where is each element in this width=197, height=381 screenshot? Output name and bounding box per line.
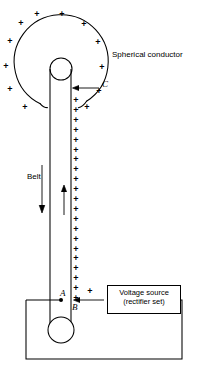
plus-charge-belt: + (73, 175, 78, 184)
van-de-graaff-figure: + + + + + + + + + + + + ++++++++++++++++… (0, 0, 197, 381)
node-a-dot (59, 298, 63, 302)
plus-charge-sphere: + (34, 10, 39, 19)
plus-charge-sphere: + (59, 10, 64, 19)
plus-charge-sphere: + (3, 62, 8, 71)
plus-charge-belt: + (73, 185, 78, 194)
plus-charge-sphere: + (81, 20, 86, 29)
plus-charge-sphere: + (84, 103, 89, 112)
plus-charge-belt: + (73, 105, 78, 114)
plus-charge-belt: + (73, 145, 78, 154)
plus-charge-belt: + (73, 224, 78, 233)
plus-charge-belt: + (73, 155, 78, 164)
spherical-conductor-label: Spherical conductor (112, 50, 183, 59)
point-c-label: C (102, 79, 108, 89)
plus-charge-belt: + (73, 274, 78, 283)
plus-charge-sphere: + (95, 38, 100, 47)
plus-charge-sphere: + (7, 37, 12, 46)
plus-charge-sphere: + (99, 63, 104, 72)
plus-charge-sphere: + (7, 85, 12, 94)
bottom-pulley (48, 317, 74, 343)
belt-down-arrow-head (39, 205, 45, 213)
plus-charge-sphere: + (96, 87, 101, 96)
plus-charge-sphere: + (22, 103, 27, 112)
voltage-source-line1: Voltage source (111, 288, 177, 297)
voltage-source-line2: (rectifier set) (111, 297, 177, 306)
belt-up-arrow-head (61, 185, 66, 192)
top-pulley (50, 58, 72, 80)
plus-charge-belt: + (73, 204, 78, 213)
point-a-label: A (60, 288, 66, 298)
plus-charge-belt: + (73, 254, 78, 263)
plus-charge-belt: + (73, 264, 78, 273)
plus-charge-sphere: + (18, 19, 23, 28)
plus-charge-belt: + (73, 125, 78, 134)
point-b-label: B (72, 302, 78, 312)
plus-charge-belt: + (73, 244, 78, 253)
belt-label: Belt (27, 172, 41, 181)
plus-charge-belt: + (73, 284, 78, 293)
plus-charge-belt: + (73, 234, 78, 243)
plus-charge-belt: + (73, 195, 78, 204)
plus-charge-source-lead: + (87, 287, 92, 296)
comb-c-arrow-head (73, 85, 80, 90)
plus-charge-belt: + (73, 135, 78, 144)
plus-charge-belt: + (73, 165, 78, 174)
plus-charge-belt: + (73, 115, 78, 124)
voltage-source-box: Voltage source (rectifier set) (107, 285, 181, 314)
plus-charge-belt: + (73, 214, 78, 223)
plus-charge-belt: + (73, 96, 78, 105)
sphere-arc-end-curl-left (40, 104, 47, 108)
